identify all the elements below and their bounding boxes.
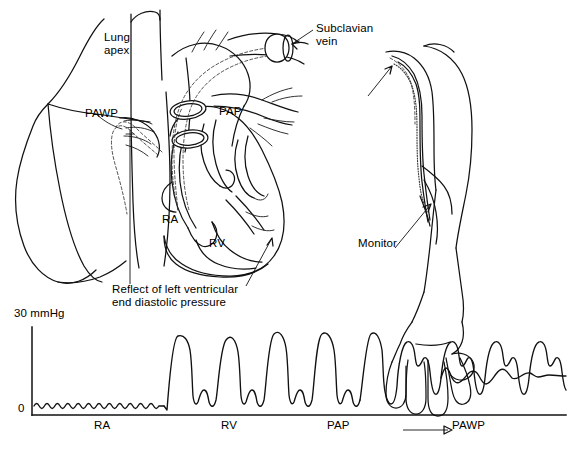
segment-label-rv: RV bbox=[221, 419, 237, 432]
y-axis-zero-label: 0 bbox=[18, 402, 25, 415]
y-axis-top-label: 30 mmHg bbox=[14, 307, 65, 320]
annotation-reflect-lvedp: Reflect of left ventricular end diastoli… bbox=[112, 283, 238, 310]
segment-label-pawp: PAWP bbox=[452, 419, 485, 432]
trace-ra bbox=[34, 404, 164, 409]
trace-rv bbox=[164, 332, 360, 410]
label-monitor: Monitor bbox=[358, 237, 397, 250]
label-rv-chamber: RV bbox=[209, 237, 225, 250]
label-lung-apex: Lung apex bbox=[104, 31, 130, 58]
figure-container: Lung apex PAWP PAP RA RV Subclavian vein… bbox=[0, 0, 576, 452]
pressure-waveform-chart bbox=[0, 0, 576, 452]
label-pap-site: PAP bbox=[219, 105, 241, 118]
segment-label-pap: PAP bbox=[327, 419, 349, 432]
label-ra-chamber: RA bbox=[162, 213, 178, 226]
segment-label-ra: RA bbox=[94, 419, 110, 432]
label-subclavian-vein: Subclavian vein bbox=[316, 22, 373, 49]
label-pawp-site: PAWP bbox=[85, 107, 118, 120]
